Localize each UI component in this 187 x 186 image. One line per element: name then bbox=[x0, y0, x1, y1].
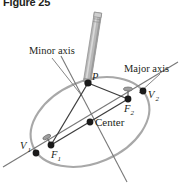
point-v1-marker bbox=[33, 150, 40, 157]
point-p-marker bbox=[84, 79, 91, 86]
point-f1-marker bbox=[48, 142, 55, 149]
vertex-1-label: V 1 bbox=[20, 140, 31, 154]
minor-axis-leader-line bbox=[52, 58, 82, 96]
point-center-marker bbox=[87, 119, 94, 126]
point-f2-marker bbox=[125, 96, 132, 103]
minor-axis-label: Minor axis bbox=[29, 45, 75, 56]
svg-text:1: 1 bbox=[58, 155, 62, 163]
figure-container: Figure 25 bbox=[0, 0, 187, 186]
center-label: Center bbox=[95, 116, 125, 128]
vertex-2-label: V 2 bbox=[148, 89, 160, 103]
svg-text:2: 2 bbox=[131, 109, 135, 117]
svg-text:1: 1 bbox=[28, 146, 32, 154]
point-v2-marker bbox=[140, 88, 147, 95]
focus-1-label: F 1 bbox=[50, 149, 61, 163]
point-p-label: P bbox=[91, 71, 99, 82]
svg-text:2: 2 bbox=[156, 95, 160, 103]
ellipse-construction-diagram: Minor axis Major axis Center P V 1 V 2 F… bbox=[0, 0, 187, 186]
string-segments bbox=[51, 83, 128, 145]
major-axis-label: Major axis bbox=[124, 63, 169, 74]
focus-2-label: F 2 bbox=[123, 103, 135, 117]
